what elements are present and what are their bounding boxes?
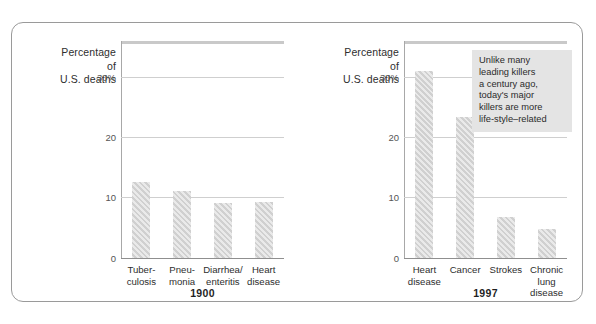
bar-0-1 bbox=[173, 191, 191, 257]
y-tick-label-10: 10 bbox=[388, 192, 399, 203]
chart-panel-1997: Percentage of U.S. deaths 0102030% Unlik… bbox=[295, 23, 581, 303]
annotation-callout: Unlike many leading killers a century ag… bbox=[472, 50, 572, 132]
x-axis-baseline bbox=[404, 258, 567, 260]
bar-1-2 bbox=[497, 217, 515, 257]
y-axis-spine bbox=[404, 41, 405, 259]
y-tick-label-10: 10 bbox=[105, 192, 116, 203]
chart-panel-1900: Percentage of U.S. deaths 0102030% 1900 … bbox=[12, 23, 298, 303]
x-axis-baseline bbox=[121, 258, 284, 260]
bar-1-0 bbox=[415, 71, 433, 257]
plot-top-rule bbox=[404, 41, 567, 44]
gridline-30 bbox=[121, 77, 284, 78]
bar-1-3 bbox=[538, 229, 556, 257]
y-tick-label-30: 30% bbox=[380, 72, 399, 83]
figure-frame: Percentage of U.S. deaths 0102030% 1900 … bbox=[11, 22, 583, 302]
y-axis-title-line-1: Percentage bbox=[24, 46, 116, 60]
bar-0-2 bbox=[214, 203, 232, 257]
y-axis-title-line-1: Percentage bbox=[307, 46, 399, 60]
plot-area-1900: 0102030% bbox=[121, 41, 284, 259]
bar-0-3 bbox=[255, 202, 273, 258]
y-axis-spine bbox=[121, 41, 122, 259]
y-tick-label-0: 0 bbox=[394, 252, 399, 263]
year-label-1900: 1900 bbox=[121, 287, 284, 299]
y-tick-label-0: 0 bbox=[111, 252, 116, 263]
x-axis-label-3: Chronic lung disease bbox=[520, 264, 573, 299]
bar-0-0 bbox=[132, 182, 150, 257]
bar-1-1 bbox=[456, 117, 474, 257]
y-tick-label-20: 20 bbox=[388, 132, 399, 143]
gridline-20 bbox=[121, 137, 284, 138]
y-tick-label-30: 30% bbox=[97, 72, 116, 83]
plot-top-rule bbox=[121, 41, 284, 44]
y-tick-label-20: 20 bbox=[105, 132, 116, 143]
x-axis-label-3: Heart disease bbox=[237, 264, 290, 287]
